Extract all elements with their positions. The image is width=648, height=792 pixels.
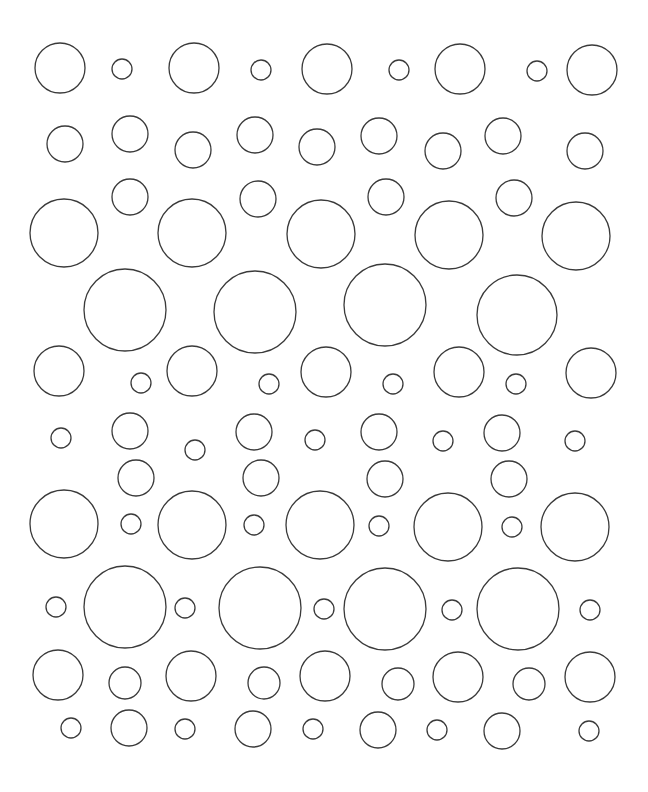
circle-outline bbox=[299, 129, 335, 165]
circle-outline bbox=[121, 514, 141, 534]
circle-outline bbox=[244, 515, 264, 535]
circle-outline bbox=[61, 718, 81, 738]
circle-outline bbox=[158, 199, 226, 267]
circle-outline bbox=[243, 460, 279, 496]
circle-outline bbox=[442, 600, 462, 620]
circle-outline bbox=[118, 460, 154, 496]
circle-outline bbox=[109, 667, 141, 699]
circle-outline bbox=[235, 711, 271, 747]
circle-outline bbox=[51, 428, 71, 448]
circle-outline bbox=[496, 180, 532, 216]
circle-outline bbox=[214, 271, 296, 353]
circle-outline bbox=[502, 517, 522, 537]
circle-outline bbox=[35, 43, 85, 93]
circle-outline bbox=[513, 668, 545, 700]
circle-outline bbox=[30, 490, 98, 558]
circle-outline bbox=[368, 179, 404, 215]
circle-pattern bbox=[0, 0, 648, 792]
circle-outline bbox=[433, 652, 483, 702]
circle-outline bbox=[169, 43, 219, 93]
circle-outline bbox=[367, 461, 403, 497]
circle-outline bbox=[112, 179, 148, 215]
circle-outline bbox=[303, 719, 323, 739]
circle-outline bbox=[158, 491, 226, 559]
circle-outline bbox=[131, 373, 151, 393]
circle-outline bbox=[427, 720, 447, 740]
circle-outline bbox=[175, 132, 211, 168]
circle-outline bbox=[360, 712, 396, 748]
circle-outline bbox=[166, 651, 216, 701]
circle-outline bbox=[580, 600, 600, 620]
circle-outline bbox=[46, 597, 66, 617]
circle-outline bbox=[527, 61, 547, 81]
circle-outline bbox=[425, 133, 461, 169]
circle-outline bbox=[305, 430, 325, 450]
circle-outline bbox=[344, 264, 426, 346]
pattern-canvas bbox=[0, 0, 648, 792]
circle-outline bbox=[477, 275, 557, 355]
circle-outline bbox=[383, 374, 403, 394]
circle-outline bbox=[251, 60, 271, 80]
circle-outline bbox=[565, 652, 615, 702]
circle-outline bbox=[112, 59, 132, 79]
circle-outline bbox=[435, 44, 485, 94]
circle-outline bbox=[567, 45, 617, 95]
circle-outline bbox=[259, 374, 279, 394]
circle-outline bbox=[344, 568, 426, 650]
circle-outline bbox=[301, 347, 351, 397]
circle-outline bbox=[566, 348, 616, 398]
circle-outline bbox=[484, 713, 520, 749]
circle-outline bbox=[84, 566, 166, 648]
circle-outline bbox=[185, 440, 205, 460]
circle-outline bbox=[567, 133, 603, 169]
circle-outline bbox=[84, 269, 166, 351]
circle-outline bbox=[167, 346, 217, 396]
circle-outline bbox=[175, 719, 195, 739]
circle-outline bbox=[484, 415, 520, 451]
circle-outline bbox=[30, 199, 98, 267]
circle-outline bbox=[287, 200, 355, 268]
circle-outline bbox=[286, 491, 354, 559]
circle-outline bbox=[34, 346, 84, 396]
circle-outline bbox=[112, 413, 148, 449]
circle-outline bbox=[236, 414, 272, 450]
circle-outline bbox=[314, 599, 334, 619]
circle-outline bbox=[240, 181, 276, 217]
circle-outline bbox=[415, 201, 483, 269]
circle-outline bbox=[542, 202, 610, 270]
circle-outline bbox=[414, 493, 482, 561]
circle-outline bbox=[302, 44, 352, 94]
circle-outline bbox=[565, 431, 585, 451]
circle-outline bbox=[382, 668, 414, 700]
circle-outline bbox=[434, 347, 484, 397]
circle-outline bbox=[219, 567, 301, 649]
circle-outline bbox=[485, 118, 521, 154]
circle-outline bbox=[491, 461, 527, 497]
circle-outline bbox=[248, 667, 280, 699]
circle-outline bbox=[300, 651, 350, 701]
circle-outline bbox=[47, 126, 83, 162]
circle-outline bbox=[369, 516, 389, 536]
circle-outline bbox=[477, 568, 559, 650]
circle-outline bbox=[579, 721, 599, 741]
circle-outline bbox=[506, 374, 526, 394]
circle-outline bbox=[389, 60, 409, 80]
circle-outline bbox=[33, 650, 83, 700]
circle-outline bbox=[111, 710, 147, 746]
circle-outline bbox=[237, 117, 273, 153]
circle-outline bbox=[361, 118, 397, 154]
circle-outline bbox=[112, 116, 148, 152]
circle-outline bbox=[433, 431, 453, 451]
circle-outline bbox=[175, 598, 195, 618]
circle-outline bbox=[541, 493, 609, 561]
circle-outline bbox=[361, 414, 397, 450]
